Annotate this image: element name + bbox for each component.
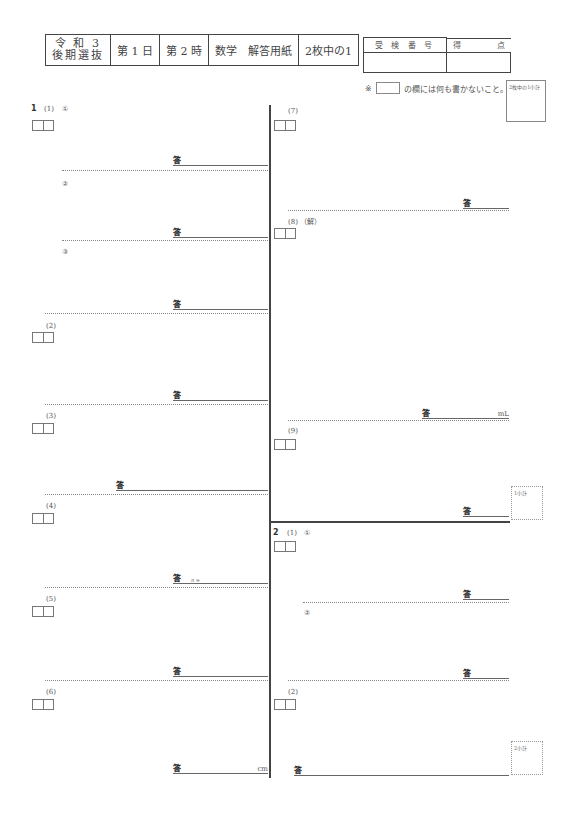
q1-5-answer[interactable]: 答 <box>173 665 268 677</box>
q1-9-answer[interactable]: 答 <box>463 505 509 517</box>
header-day: 第 1 日 <box>111 35 160 66</box>
q1-subtotal-label: 1小計 <box>514 490 527 496</box>
answer-mark: 答 <box>294 764 302 775</box>
q1-1-1-answer[interactable]: 答 <box>173 154 268 166</box>
examinee-number-label: 受 検 番 号 <box>364 38 447 53</box>
q1-3-label: (3) <box>46 412 56 420</box>
q1-number: 1 <box>31 104 37 113</box>
q2-1-label: (1) <box>287 529 297 537</box>
answer-mark: 答 <box>463 505 471 516</box>
q1-8-number: (8) <box>288 218 298 226</box>
score-label-left: 得 <box>453 39 461 52</box>
q1-5-label: (5) <box>46 595 56 603</box>
q1-6-answer[interactable]: 答 cm <box>173 762 268 774</box>
q1-9-score-box[interactable] <box>274 439 296 450</box>
q2-subtotal-label: 2小計 <box>514 745 527 751</box>
q2-subtotal-box[interactable]: 2小計 <box>511 741 543 775</box>
dotted-separator <box>288 210 509 211</box>
q1-5-score-box[interactable] <box>32 606 54 617</box>
answer-mark: 答 <box>116 479 124 490</box>
header-subject: 数学 解答用紙 <box>209 35 299 66</box>
answer-mark: 答 <box>463 588 471 599</box>
q1-8-label: (8) （解） <box>288 216 321 226</box>
dotted-separator <box>45 313 268 314</box>
q1-7-score-box[interactable] <box>274 120 296 131</box>
answer-mark: 答 <box>173 298 181 309</box>
q2-1-score-box[interactable] <box>274 541 296 552</box>
q1-7-answer[interactable]: 答 <box>463 197 509 209</box>
answer-prefix: n = <box>191 577 200 583</box>
header-era: 令 和 3 後期選抜 <box>46 35 111 66</box>
header-period: 第 2 時 <box>160 35 209 66</box>
score-label: 得 点 <box>447 38 511 52</box>
q1-1-2-sub: ② <box>62 180 68 188</box>
q1-6-score-box[interactable] <box>32 699 54 710</box>
q1-1-3-answer[interactable]: 答 <box>173 298 268 310</box>
q1-2-score-box[interactable] <box>32 332 54 343</box>
q1-8-score-box[interactable] <box>274 228 296 239</box>
score-field[interactable] <box>447 52 511 72</box>
dotted-separator <box>288 420 509 421</box>
dotted-separator <box>45 587 268 588</box>
page-subtotal-label: 2枚中の1小計 <box>509 84 540 90</box>
q1-8-solution-label: （解） <box>300 218 321 226</box>
q1-4-score-box[interactable] <box>32 513 54 524</box>
q2-number: 2 <box>273 528 279 537</box>
note: ※ の欄には何も書かないこと。 <box>365 82 508 94</box>
q2-2-score-box[interactable] <box>274 699 296 710</box>
dotted-separator <box>45 494 268 495</box>
answer-mark: 答 <box>173 665 181 676</box>
note-text: の欄には何も書かないこと。 <box>404 83 508 94</box>
answer-mark: 答 <box>173 389 181 400</box>
dotted-separator <box>62 170 268 171</box>
answer-mark: 答 <box>173 154 181 165</box>
q2-1-2-sub: ② <box>304 609 310 617</box>
dotted-separator <box>45 404 268 405</box>
q1-1-1-sub: ① <box>62 105 68 113</box>
answer-unit: cm <box>257 765 268 773</box>
q2-1-2-answer[interactable]: 答 <box>463 667 509 679</box>
score-label-right: 点 <box>497 39 505 52</box>
q1-1-label: (1) <box>44 105 54 113</box>
header-sheet: 2枚中の1 <box>299 35 359 66</box>
q1-2-label: (2) <box>46 322 56 330</box>
note-mark: ※ <box>365 84 372 93</box>
answer-mark: 答 <box>463 197 471 208</box>
q2-divider <box>270 521 510 523</box>
q1-3-answer[interactable]: 答 <box>116 479 268 491</box>
q1-1-2-answer[interactable]: 答 <box>173 226 268 238</box>
q1-2-answer[interactable]: 答 <box>173 389 268 401</box>
q1-7-label: (7) <box>288 107 298 115</box>
dotted-separator <box>288 680 509 681</box>
answer-mark: 答 <box>173 572 181 583</box>
q2-2-label: (2) <box>288 688 298 696</box>
center-divider <box>269 105 271 778</box>
dotted-separator <box>62 240 268 241</box>
examinee-number-field[interactable] <box>364 52 447 72</box>
q1-6-label: (6) <box>46 688 56 696</box>
q1-9-label: (9) <box>288 427 298 435</box>
q1-subtotal-box[interactable]: 1小計 <box>511 486 543 520</box>
blank-box-sample <box>376 82 400 94</box>
answer-unit: mL <box>498 410 509 418</box>
answer-mark: 答 <box>173 762 181 773</box>
q1-3-score-box[interactable] <box>32 423 54 434</box>
q2-2-answer[interactable]: 答 <box>294 764 509 776</box>
q1-1-score-box[interactable] <box>32 120 54 131</box>
q1-4-answer[interactable]: 答 n = <box>173 572 268 584</box>
q2-1-1-answer[interactable]: 答 <box>463 588 509 600</box>
q1-8-answer[interactable]: 答 mL <box>422 407 509 419</box>
dotted-separator <box>45 680 268 681</box>
dotted-separator <box>303 602 509 603</box>
header-table: 令 和 3 後期選抜 第 1 日 第 2 時 数学 解答用紙 2枚中の1 <box>45 34 359 66</box>
q2-1-1-sub: ① <box>304 529 310 537</box>
answer-mark: 答 <box>422 407 430 418</box>
score-table: 受 検 番 号 得 点 <box>363 37 511 73</box>
answer-mark: 答 <box>463 667 471 678</box>
q1-4-label: (4) <box>46 502 56 510</box>
answer-mark: 答 <box>173 226 181 237</box>
q1-1-3-sub: ③ <box>62 248 68 256</box>
page-subtotal-box[interactable]: 2枚中の1小計 <box>506 80 546 122</box>
